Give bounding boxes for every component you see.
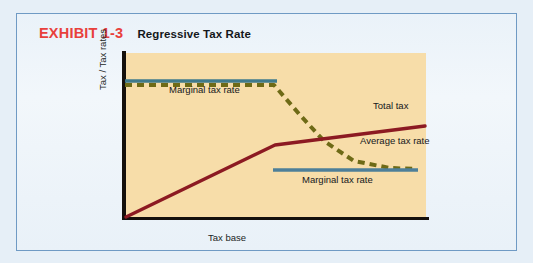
y-axis-label: Tax / Tax rates [97, 29, 108, 90]
annotation-average-tax-rate: Average tax rate [360, 135, 430, 146]
exhibit-panel: EXHIBIT 1-3 Regressive Tax Rate Tax / Ta… [16, 13, 517, 251]
exhibit-figure: EXHIBIT 1-3 Regressive Tax Rate Tax / Ta… [0, 0, 533, 263]
annotation-marginal-tax-rate-upper: Marginal tax rate [169, 84, 240, 95]
series-average-tax-rate [125, 85, 417, 169]
annotation-total-tax: Total tax [373, 100, 408, 111]
chart-area: Tax / Tax rates Marginal tax rate Total … [17, 14, 518, 252]
annotation-marginal-tax-rate-lower: Marginal tax rate [302, 174, 373, 185]
x-axis-label: Tax base [17, 232, 437, 243]
